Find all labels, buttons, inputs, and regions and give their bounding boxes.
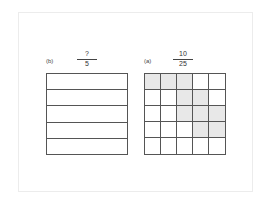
grid-cell	[145, 122, 161, 138]
grid-cell	[177, 122, 193, 138]
grid-cell-shaded	[193, 122, 209, 138]
denominator: 25	[173, 60, 193, 69]
grid-cell	[193, 138, 209, 154]
grid-cell-shaded	[161, 74, 177, 90]
bar-row	[47, 123, 127, 139]
label-b: (b)	[46, 58, 53, 64]
fraction-right: 10 25	[173, 50, 193, 68]
grid-cell	[193, 74, 209, 90]
grid-cell-shaded	[177, 106, 193, 122]
grid-cell	[161, 90, 177, 106]
grid-cell	[209, 90, 225, 106]
grid-cell-shaded	[177, 74, 193, 90]
grid-cell	[145, 138, 161, 154]
grid-cell	[161, 138, 177, 154]
grid-model-25ths	[144, 73, 226, 155]
bar-row	[47, 74, 127, 90]
grid-cell	[161, 122, 177, 138]
grid-cell-shaded	[193, 106, 209, 122]
denominator: 5	[77, 60, 97, 69]
fraction-left: ? 5	[77, 50, 97, 68]
grid-cell	[209, 74, 225, 90]
grid-cell-shaded	[193, 90, 209, 106]
bar-model-fifths	[46, 73, 128, 155]
grid-cell	[209, 138, 225, 154]
grid-cell	[161, 106, 177, 122]
grid-cell-shaded	[177, 90, 193, 106]
numerator: ?	[77, 50, 97, 60]
label-a: (a)	[144, 58, 151, 64]
bar-row	[47, 139, 127, 154]
grid-cell-shaded	[209, 122, 225, 138]
grid-cell-shaded	[145, 74, 161, 90]
grid-cell	[145, 106, 161, 122]
grid-cell	[177, 138, 193, 154]
bar-row	[47, 90, 127, 106]
numerator: 10	[173, 50, 193, 60]
bar-row	[47, 106, 127, 122]
grid-cell-shaded	[209, 106, 225, 122]
grid-cell	[145, 90, 161, 106]
